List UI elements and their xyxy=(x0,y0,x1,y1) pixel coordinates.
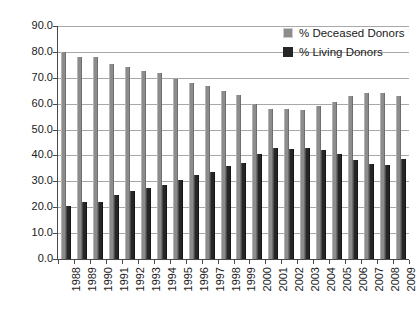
x-axis-tick-label: 2005 xyxy=(342,267,353,291)
x-axis-tick-mark xyxy=(234,260,235,264)
y-axis-tick-label: 0.0 xyxy=(5,253,53,264)
x-axis-tick-label: 1994 xyxy=(167,267,178,291)
y-axis-tick-label: 30.0 xyxy=(5,175,53,186)
bar-living-donors xyxy=(98,202,103,259)
bar-living-donors xyxy=(130,191,135,259)
x-axis-tick-mark xyxy=(154,260,155,264)
bar-group xyxy=(61,26,71,259)
bar-living-donors xyxy=(369,164,374,259)
bar-group xyxy=(252,26,262,259)
x-axis-tick-mark xyxy=(218,260,219,264)
x-axis-tick-label: 2009 xyxy=(406,267,417,291)
x-axis-tick-mark xyxy=(297,260,298,264)
bar-group xyxy=(141,26,151,259)
x-axis-tick-mark xyxy=(90,260,91,264)
legend-swatch-icon xyxy=(283,47,293,57)
y-axis-tick-labels: 90.080.070.060.050.040.030.020.010.00.0 xyxy=(0,0,53,310)
x-axis-tick-mark xyxy=(202,260,203,264)
bar-group xyxy=(189,26,199,259)
x-axis-tick-label: 1998 xyxy=(231,267,242,291)
bar-living-donors xyxy=(257,154,262,259)
x-axis-tick-mark xyxy=(393,260,394,264)
x-axis-tick-mark xyxy=(170,260,171,264)
x-axis-tick-label: 2004 xyxy=(326,267,337,291)
bar-living-donors xyxy=(305,148,310,259)
x-axis-tick-mark xyxy=(345,260,346,264)
y-axis-tick-label: 80.0 xyxy=(5,46,53,57)
bar-group xyxy=(109,26,119,259)
x-axis-tick-mark xyxy=(58,260,59,264)
bar-living-donors xyxy=(146,188,151,259)
x-axis-tick-label: 1991 xyxy=(119,267,130,291)
legend-swatch-icon xyxy=(283,28,293,38)
y-axis-tick-label: 90.0 xyxy=(5,20,53,31)
x-axis-tick-mark xyxy=(377,260,378,264)
bar-group xyxy=(93,26,103,259)
x-axis-tick-label: 2001 xyxy=(278,267,289,291)
x-axis-tick-label: 2002 xyxy=(294,267,305,291)
bar-group xyxy=(221,26,231,259)
x-axis-tick-mark xyxy=(265,260,266,264)
x-axis-tick-label: 1996 xyxy=(199,267,210,291)
x-axis-tick-label: 1992 xyxy=(135,267,146,291)
x-axis-tick-label: 2006 xyxy=(358,267,369,291)
y-axis-tick-label: 60.0 xyxy=(5,98,53,109)
bar-living-donors xyxy=(289,149,294,259)
x-axis-tick-label: 1988 xyxy=(71,267,82,291)
x-axis-tick-label: 1999 xyxy=(246,267,257,291)
bar-group xyxy=(173,26,183,259)
bar-chart: 90.080.070.060.050.040.030.020.010.00.0 … xyxy=(0,0,417,310)
y-axis-tick-label: 50.0 xyxy=(5,124,53,135)
bar-living-donors xyxy=(178,180,183,259)
x-axis-tick-mark xyxy=(313,260,314,264)
bar-living-donors xyxy=(321,150,326,259)
legend-item-label: % Deceased Donors xyxy=(299,27,404,39)
bar-group xyxy=(77,26,87,259)
chart-legend: % Deceased Donors% Living Donors xyxy=(283,24,415,62)
bar-group xyxy=(205,26,215,259)
x-axis-tick-label: 2007 xyxy=(374,267,385,291)
x-axis-tick-mark xyxy=(329,260,330,264)
x-axis-tick-label: 1990 xyxy=(103,267,114,291)
bar-living-donors xyxy=(401,159,406,259)
x-axis-tick-mark xyxy=(106,260,107,264)
y-axis-tick-label: 40.0 xyxy=(5,149,53,160)
x-axis-tick-mark xyxy=(122,260,123,264)
bar-living-donors xyxy=(273,148,278,259)
x-axis-tick-label: 2008 xyxy=(390,267,401,291)
bar-group xyxy=(157,26,167,259)
bar-living-donors xyxy=(385,165,390,259)
bar-group xyxy=(268,26,278,259)
bar-living-donors xyxy=(353,160,358,259)
bar-living-donors xyxy=(210,172,215,260)
bar-living-donors xyxy=(114,195,119,259)
bar-living-donors xyxy=(194,175,199,259)
x-axis-tick-mark xyxy=(409,260,410,264)
x-axis-tick-label: 1997 xyxy=(215,267,226,291)
legend-item[interactable]: % Deceased Donors xyxy=(283,24,415,41)
x-axis-tick-mark xyxy=(138,260,139,264)
bar-living-donors xyxy=(226,166,231,259)
bar-group xyxy=(236,26,246,259)
y-axis-tick-label: 70.0 xyxy=(5,72,53,83)
x-axis-tick-mark xyxy=(361,260,362,264)
x-axis-tick-mark xyxy=(186,260,187,264)
y-axis-tick-label: 10.0 xyxy=(5,227,53,238)
x-axis-tick-mark xyxy=(74,260,75,264)
bar-living-donors xyxy=(162,185,167,259)
bar-living-donors xyxy=(66,206,71,259)
y-axis-tick-label: 20.0 xyxy=(5,201,53,212)
legend-item-label: % Living Donors xyxy=(299,46,383,58)
x-axis-tick-label: 1993 xyxy=(151,267,162,291)
x-axis-tick-mark xyxy=(249,260,250,264)
x-axis-tick-label: 1989 xyxy=(87,267,98,291)
legend-item[interactable]: % Living Donors xyxy=(283,43,415,60)
bar-group xyxy=(125,26,135,259)
x-axis-tick-label: 2000 xyxy=(262,267,273,291)
x-axis-tick-label: 2003 xyxy=(310,267,321,291)
bar-living-donors xyxy=(337,154,342,259)
bar-living-donors xyxy=(241,163,246,259)
x-axis-tick-label: 1995 xyxy=(183,267,194,291)
x-axis-tick-mark xyxy=(281,260,282,264)
bar-living-donors xyxy=(82,202,87,259)
